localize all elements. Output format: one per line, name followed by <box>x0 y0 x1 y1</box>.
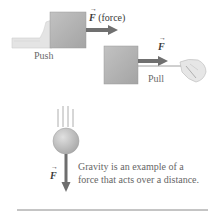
gravity-caption: Gravity is an example of a force that ac… <box>78 160 199 186</box>
gravity-force-label: F <box>50 170 57 181</box>
force-vector-symbol: F <box>158 41 165 52</box>
force-word: (force) <box>98 12 125 23</box>
pulling-hand-icon <box>180 59 206 82</box>
pushing-hand-icon <box>12 20 52 48</box>
caption-line-1: Gravity is an example of a <box>78 160 199 173</box>
push-box <box>50 12 86 48</box>
push-force-arrow <box>86 25 118 35</box>
pull-force-arrow <box>138 56 168 66</box>
gravity-force-arrow <box>62 154 71 192</box>
pull-label: Pull <box>148 73 164 84</box>
motion-lines <box>58 106 73 127</box>
pull-force-label: F <box>158 41 165 52</box>
falling-ball <box>53 128 79 154</box>
force-vector-symbol: F <box>50 170 57 181</box>
caption-line-2: force that acts over a distance. <box>78 173 199 186</box>
push-label: Push <box>34 50 53 61</box>
pull-box <box>104 46 138 84</box>
push-force-label: F (force) <box>89 12 125 23</box>
force-vector-symbol: F <box>89 12 96 23</box>
